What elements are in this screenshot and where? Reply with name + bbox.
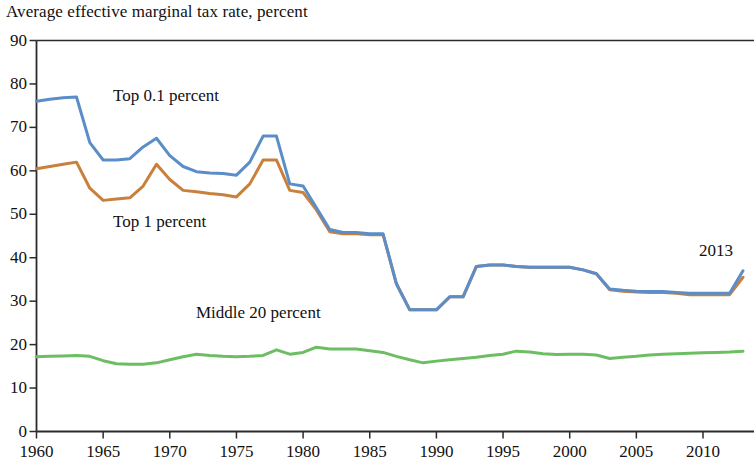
x-axis-tick-label: 1990 xyxy=(406,443,466,460)
y-axis-tick-label: 0 xyxy=(0,423,27,440)
x-axis-tick-label: 1975 xyxy=(206,443,266,460)
x-axis-tick-label: 2010 xyxy=(673,443,733,460)
y-axis-tick-label: 60 xyxy=(0,162,27,179)
series-line-top-0-1-percent xyxy=(37,97,743,310)
series-label-middle-20-percent: Middle 20 percent xyxy=(196,303,321,322)
y-axis-tick-label: 90 xyxy=(0,32,27,49)
x-axis-tick-label: 1980 xyxy=(273,443,333,460)
y-axis-tick-label: 20 xyxy=(0,336,27,353)
x-axis-tick-label: 1965 xyxy=(73,443,133,460)
y-axis-tick-label: 40 xyxy=(0,249,27,266)
x-axis-tick-label: 1960 xyxy=(7,443,67,460)
y-axis-tick-label: 70 xyxy=(0,118,27,135)
y-axis-tick-label: 10 xyxy=(0,379,27,396)
series-label-top-0-1-percent: Top 0.1 percent xyxy=(113,86,219,105)
y-axis-tick-label: 30 xyxy=(0,292,27,309)
chart-figure: Average effective marginal tax rate, per… xyxy=(0,0,754,467)
series-label-top-1-percent: Top 1 percent xyxy=(113,212,206,231)
y-axis-tick-label: 80 xyxy=(0,75,27,92)
series-line-top-1-percent xyxy=(37,160,743,310)
x-axis-tick-label: 1970 xyxy=(140,443,200,460)
x-axis-tick-label: 1995 xyxy=(473,443,533,460)
annotation-2013: 2013 xyxy=(699,241,733,260)
x-axis-tick-label: 2000 xyxy=(540,443,600,460)
x-axis-tick-label: 1985 xyxy=(340,443,400,460)
x-axis-tick-label: 2005 xyxy=(606,443,666,460)
y-axis-tick-label: 50 xyxy=(0,205,27,222)
series-line-middle-20-percent xyxy=(37,347,743,364)
chart-plot-area xyxy=(0,0,754,467)
